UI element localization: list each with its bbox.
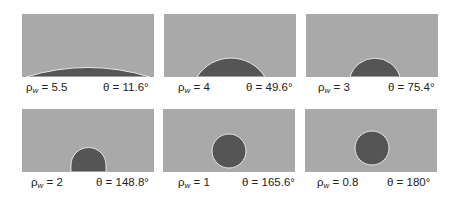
theta-label-1: θ = 11.6° (103, 81, 149, 93)
theta-label-2: θ = 49.6° (246, 81, 292, 93)
rho-label-6: ρw = 0.8 (317, 176, 358, 190)
theta-label-3: θ = 75.4° (388, 81, 434, 93)
rho-label-1: ρw = 5.5 (26, 81, 67, 95)
droplet-shape-2 (164, 14, 296, 77)
droplet-panel-4 (22, 109, 154, 172)
droplet-shape-4 (22, 109, 154, 172)
rho-label-4: ρw = 2 (31, 176, 63, 190)
droplet-panel-3 (306, 14, 438, 77)
theta-label-4: θ = 148.8° (96, 176, 149, 188)
theta-label-5: θ = 165.6° (242, 176, 295, 188)
droplet-shape-3 (306, 14, 438, 77)
droplet-shape-1 (22, 14, 154, 77)
droplet-shape-5 (163, 109, 295, 172)
theta-label-6: θ = 180° (387, 176, 430, 188)
droplet-shape-6 (305, 109, 437, 172)
droplet-panel-1 (22, 14, 154, 77)
droplet-panel-6 (305, 109, 437, 172)
rho-label-5: ρw = 1 (178, 176, 210, 190)
rho-label-2: ρw = 4 (178, 81, 210, 95)
droplet-panel-5 (163, 109, 295, 172)
droplet-panel-2 (164, 14, 296, 77)
rho-label-3: ρw = 3 (318, 81, 350, 95)
